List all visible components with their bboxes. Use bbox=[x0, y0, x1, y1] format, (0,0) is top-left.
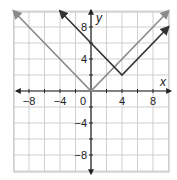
y-tick-label: −4 bbox=[74, 117, 87, 129]
y-tick-label: 4 bbox=[81, 53, 87, 65]
x-tick-label: 8 bbox=[150, 95, 156, 107]
y-axis-label: y bbox=[95, 11, 103, 25]
coordinate-plane: −8−44884−4−80 x y bbox=[0, 0, 177, 180]
axes bbox=[16, 10, 171, 174]
y-tick-label: −8 bbox=[74, 149, 87, 161]
x-tick-label: −4 bbox=[54, 95, 67, 107]
origin-label: 0 bbox=[80, 95, 86, 107]
y-tick-label: 8 bbox=[81, 21, 87, 33]
x-tick-label: 4 bbox=[119, 95, 125, 107]
x-axis-label: x bbox=[159, 75, 167, 89]
x-tick-label: −8 bbox=[23, 95, 36, 107]
